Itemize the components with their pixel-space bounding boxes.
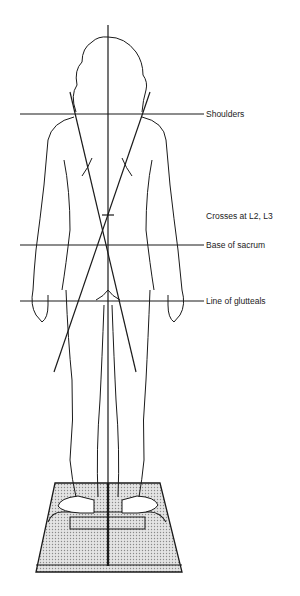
platform [36,483,182,572]
label-glutteals: Line of glutteals [206,297,266,306]
label-crosses: Crosses at L2, L3 [206,212,273,221]
reference-lines [20,25,204,483]
label-shoulders: Shoulders [206,110,244,119]
label-sacrum: Base of sacrum [206,241,265,250]
diagonal-right [54,92,150,372]
